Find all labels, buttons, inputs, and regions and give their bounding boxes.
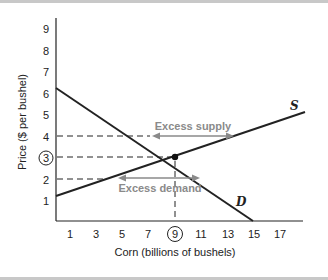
x-tick-17: 17 (274, 228, 286, 240)
demand-curve (56, 88, 253, 221)
y-tick-8: 8 (43, 45, 49, 57)
x-tick-3: 3 (93, 228, 99, 240)
x-axis-title: Corn (billions of bushels) (114, 246, 235, 258)
y-tick-1: 1 (43, 195, 49, 207)
y-tick-4: 4 (43, 131, 49, 143)
x-tick-11: 11 (195, 228, 206, 240)
y-axis-title: Price ($ per bushel) (16, 74, 28, 170)
x-tick-labels: 1 3 5 7 9 11 13 15 17 (67, 227, 286, 242)
excess-demand-label: Excess demand (118, 182, 201, 194)
x-tick-1: 1 (67, 228, 73, 240)
y-tick-2: 2 (43, 174, 49, 186)
y-tick-5: 5 (43, 109, 49, 121)
equilibrium-point (172, 154, 178, 160)
y-tick-7: 7 (43, 66, 49, 78)
supply-label: S (290, 99, 299, 113)
x-tick-15: 15 (248, 228, 260, 240)
x-tick-9: 9 (172, 228, 178, 240)
y-tick-labels: 9 8 7 6 5 4 3 2 1 (39, 23, 53, 207)
excess-supply-arrow (152, 133, 234, 140)
excess-demand-arrow (118, 175, 200, 182)
y-tick-3: 3 (43, 152, 49, 164)
x-tick-13: 13 (222, 228, 234, 240)
supply-demand-chart: 9 8 7 6 5 4 3 2 1 1 3 5 7 9 11 13 15 17 … (0, 0, 328, 280)
demand-label: D (235, 195, 247, 209)
excess-supply-label: Excess supply (155, 120, 232, 132)
x-tick-7: 7 (145, 228, 151, 240)
y-tick-6: 6 (43, 88, 49, 100)
x-tick-5: 5 (119, 228, 125, 240)
y-tick-9: 9 (43, 23, 49, 35)
